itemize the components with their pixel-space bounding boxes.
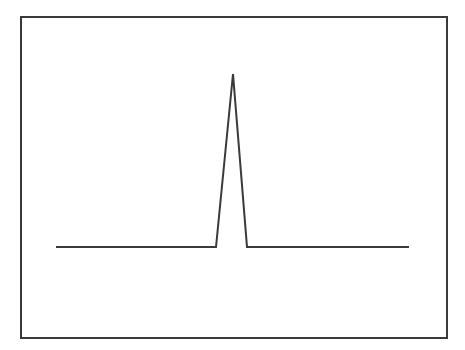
plot-area	[0, 0, 465, 350]
signal-line	[56, 74, 409, 247]
